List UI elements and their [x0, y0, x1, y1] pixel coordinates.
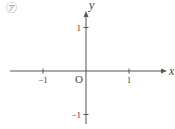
y-tick-label: −1: [71, 110, 81, 120]
x-tick-label: −1: [38, 75, 48, 85]
x-axis-label: x: [168, 64, 175, 78]
y-tick-label: 1: [77, 23, 82, 33]
x-axis-arrow: [161, 69, 167, 74]
y-axis-arrow: [84, 11, 89, 17]
coordinate-plane: xyO−111−1: [0, 0, 175, 129]
origin-label: O: [75, 73, 83, 85]
x-tick-label: 1: [127, 75, 132, 85]
y-axis-label: y: [88, 0, 95, 12]
